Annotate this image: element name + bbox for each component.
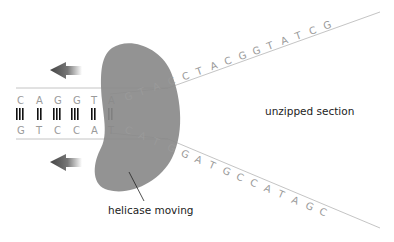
arrow-top — [50, 62, 82, 79]
svg-text:C: C — [17, 95, 24, 106]
arrow-bottom — [50, 154, 82, 171]
svg-text:T: T — [206, 159, 218, 172]
left-arrow-icon — [50, 62, 82, 79]
svg-text:A: A — [262, 182, 273, 195]
helicase-enzyme — [95, 43, 180, 191]
svg-text:C: C — [235, 171, 246, 184]
bond-triple — [16, 108, 24, 120]
svg-text:G: G — [73, 95, 81, 106]
svg-text:C: C — [223, 54, 233, 67]
diagram-canvas: C A G G T A — [0, 0, 394, 242]
helicase-moving-label: helicase moving — [108, 204, 194, 216]
svg-text:C: C — [318, 205, 329, 218]
svg-text:A: A — [279, 34, 289, 47]
dna-helicase-diagram: C A G G T A — [0, 0, 394, 242]
svg-text:C: C — [307, 24, 317, 37]
bond-triple — [71, 108, 79, 120]
unzipped-section-label: unzipped section — [265, 105, 354, 117]
svg-text:C: C — [180, 70, 190, 83]
left-arrow-icon — [50, 154, 82, 171]
svg-text:T: T — [90, 95, 98, 106]
svg-text:A: A — [36, 95, 43, 106]
svg-text:A: A — [91, 125, 98, 136]
bond-double — [37, 108, 42, 120]
paired-top-bases: C A G G T A — [17, 95, 115, 106]
svg-text:A: A — [209, 59, 219, 72]
svg-text:T: T — [35, 125, 43, 136]
svg-text:G: G — [304, 200, 315, 213]
svg-text:G: G — [221, 165, 232, 178]
paired-bottom-bases: G T C C A T — [17, 125, 115, 136]
svg-text:C: C — [73, 125, 80, 136]
svg-text:A: A — [193, 153, 204, 166]
svg-text:C: C — [54, 125, 61, 136]
bond-double — [91, 108, 96, 120]
svg-text:G: G — [54, 95, 62, 106]
svg-text:G: G — [17, 125, 25, 136]
svg-text:G: G — [179, 147, 190, 160]
strand-lines — [16, 12, 380, 228]
hydrogen-bonds — [16, 108, 113, 120]
svg-text:T: T — [275, 188, 287, 201]
bond-triple — [53, 108, 61, 120]
svg-text:C: C — [249, 176, 260, 189]
svg-text:A: A — [290, 194, 301, 207]
